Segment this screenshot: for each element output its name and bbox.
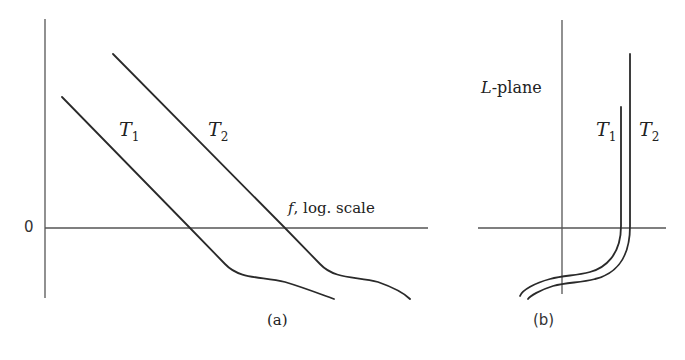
panel-a-zero-label: 0: [24, 218, 34, 236]
panel-a-curve-t2: [113, 54, 410, 299]
panel-b-t1-label: T1: [596, 118, 616, 140]
panel-a-caption: (a): [267, 311, 288, 329]
panel-b-caption: (b): [533, 311, 554, 329]
panel-b-t2-label: T2: [639, 118, 659, 140]
panel-b-curve-t2: [528, 54, 630, 299]
panel-a-t1-label: T1: [119, 118, 139, 140]
figure-canvas: [0, 0, 685, 360]
panel-a-curve-t1: [62, 97, 334, 299]
panel-a-t2-label: T2: [208, 118, 228, 140]
panel-a-x-axis-label: f, log. scale: [288, 199, 375, 217]
panel-b-plane-label: L-plane: [481, 78, 542, 97]
